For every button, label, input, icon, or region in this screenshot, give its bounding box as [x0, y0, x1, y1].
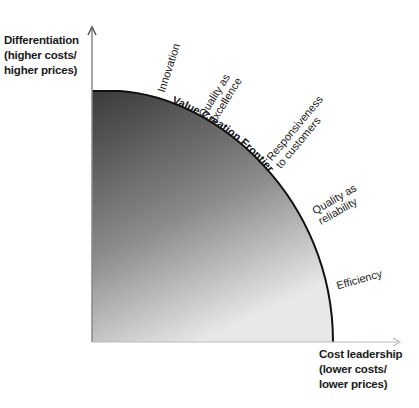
- x-axis-label-line: (lower costs/: [319, 362, 419, 377]
- x-axis-label: Cost leadership (lower costs/ lower pric…: [319, 347, 419, 392]
- y-axis-label-line: Differentiation: [4, 33, 94, 48]
- x-axis-label-line: lower prices): [319, 377, 419, 392]
- y-axis-label-line: (higher costs/: [4, 48, 94, 63]
- y-axis-label-line: higher prices): [4, 63, 94, 78]
- x-axis-label-line: Cost leadership: [319, 347, 419, 362]
- y-axis-label: Differentiation (higher costs/ higher pr…: [4, 33, 94, 78]
